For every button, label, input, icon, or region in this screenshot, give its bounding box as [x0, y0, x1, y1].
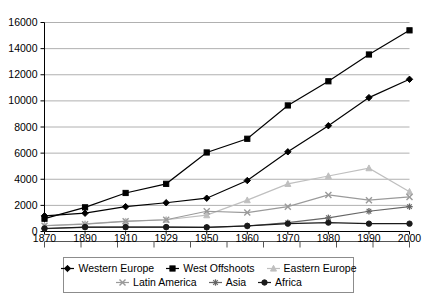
x-axis-tick-label: 1870 — [25, 233, 65, 244]
y-axis-tick-label: 6000 — [0, 148, 38, 159]
y-axis-tick-label: 2000 — [0, 200, 38, 211]
y-axis-tick-marks — [41, 23, 45, 232]
y-axis-tick-label: 8000 — [0, 122, 38, 133]
x-axis-tick-label: 1990 — [349, 233, 389, 244]
legend-item-label: Asia — [226, 277, 246, 288]
series-west-offshoots — [42, 28, 412, 222]
legend-marker-asterisk-icon — [208, 277, 223, 288]
legend-marker-diamond-icon — [60, 263, 75, 274]
y-axis-tick-label: 10000 — [0, 95, 38, 106]
legend-marker-cross-x-icon — [115, 277, 130, 288]
legend-marker-square-icon — [165, 263, 180, 274]
y-axis-tick-label: 16000 — [0, 17, 38, 28]
legend-item-africa[interactable]: Africa — [257, 277, 302, 288]
series-line — [45, 79, 410, 216]
series-line — [45, 30, 410, 218]
legend-row: Western EuropeWest OffshootsEastern Euro… — [68, 261, 349, 275]
legend-item-latin-america[interactable]: Latin America — [115, 277, 197, 288]
axes — [45, 23, 410, 242]
x-axis-tick-label: 1970 — [268, 233, 308, 244]
legend-item-west-offshoots[interactable]: West Offshoots — [165, 263, 254, 274]
x-axis-tick-label: 1980 — [308, 233, 348, 244]
legend-item-eastern-europe[interactable]: Eastern Europe — [266, 263, 357, 274]
y-axis-tick-label: 14000 — [0, 43, 38, 54]
x-axis-tick-label: 1929 — [146, 233, 186, 244]
x-axis-tick-label: 1960 — [227, 233, 267, 244]
legend-marker-triangle-icon — [266, 263, 281, 274]
legend-item-label: Eastern Europe — [284, 263, 357, 274]
data-series-layer — [41, 28, 412, 232]
legend-item-asia[interactable]: Asia — [208, 277, 246, 288]
legend-item-label: Latin America — [133, 277, 197, 288]
gridlines — [45, 23, 410, 232]
series-western-europe — [41, 76, 412, 219]
x-axis-tick-label: 1890 — [65, 233, 105, 244]
x-axis-tick-label: 2000 — [390, 233, 426, 244]
legend-row: Latin AmericaAsiaAfrica — [68, 275, 349, 289]
x-axis-tick-label: 1950 — [187, 233, 227, 244]
series-line — [45, 168, 410, 225]
series-africa — [42, 220, 412, 231]
series-line — [45, 207, 410, 229]
legend-item-western-europe[interactable]: Western Europe — [60, 263, 154, 274]
y-axis-tick-label: 12000 — [0, 69, 38, 80]
x-axis-tick-label: 1910 — [106, 233, 146, 244]
legend-item-label: Africa — [275, 277, 302, 288]
legend-marker-circle-icon — [257, 277, 272, 288]
legend-item-label: Western Europe — [78, 263, 154, 274]
series-eastern-europe — [42, 165, 413, 228]
legend-item-label: West Offshoots — [183, 263, 254, 274]
chart-legend: Western EuropeWest OffshootsEastern Euro… — [63, 257, 354, 293]
y-axis-tick-label: 4000 — [0, 174, 38, 185]
